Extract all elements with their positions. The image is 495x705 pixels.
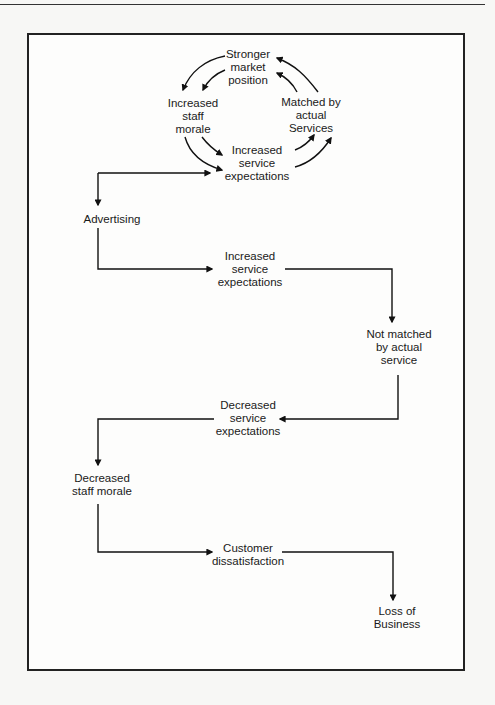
node-decreased-staff-morale: Decreased staff morale xyxy=(72,472,132,498)
node-customer-dissatisfaction: Customer dissatisfaction xyxy=(212,542,284,568)
arrow-ise-to-matched-lower xyxy=(295,138,331,167)
arrow-stronger-to-morale-inner xyxy=(203,70,225,90)
arrow-matched-to-stronger-inner xyxy=(277,73,297,92)
node-matched-by-actual-services: Matched by actual Services xyxy=(281,96,340,135)
arrow-ise-to-not-matched xyxy=(285,269,392,322)
node-advertising: Advertising xyxy=(84,213,141,226)
arrow-cd-to-lob xyxy=(282,552,393,600)
node-stronger-market-position: Stronger market position xyxy=(226,48,270,87)
arrow-advertising-to-ise xyxy=(98,228,212,269)
arrow-matched-to-stronger-outer xyxy=(277,58,318,92)
arrow-ise-to-matched-upper xyxy=(295,135,314,150)
arrow-dsm-to-cd xyxy=(98,504,212,552)
arrow-morale-to-ise-lower xyxy=(185,137,222,170)
arrow-not-matched-to-dse xyxy=(280,375,398,419)
node-increased-staff-morale: Increased staff morale xyxy=(168,97,219,136)
arrow-dse-to-dsm xyxy=(98,419,214,465)
node-decreased-service-expectations: Decreased service expectations xyxy=(216,399,281,438)
node-not-matched-by-actual-service: Not matched by actual service xyxy=(366,328,431,367)
arrow-morale-to-ise-upper xyxy=(202,137,222,155)
node-loss-of-business: Loss of Business xyxy=(374,605,421,631)
node-increased-service-expectations: Increased service expectations xyxy=(218,250,283,289)
node-increased-service-expectations-cycle: Increased service expectations xyxy=(225,144,290,183)
